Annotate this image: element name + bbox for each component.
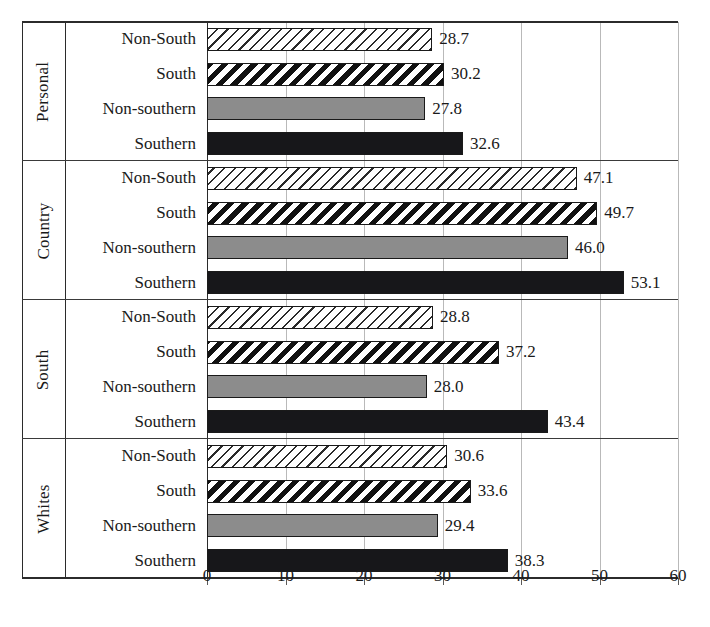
bar <box>207 341 499 364</box>
bar-row: Non-South28.7 <box>22 22 678 57</box>
bar-value-label: 37.2 <box>506 335 536 370</box>
series-label: Southern <box>66 126 202 161</box>
bar <box>207 28 432 51</box>
bar-value-label: 27.8 <box>432 92 462 127</box>
x-tick-label: 20 <box>356 566 373 586</box>
bar-row: Non-South28.8 <box>22 300 678 335</box>
series-label: Non-southern <box>66 231 202 266</box>
series-label: Southern <box>66 404 202 439</box>
bar <box>207 167 577 190</box>
bar <box>207 375 427 398</box>
bar-value-label: 33.6 <box>478 474 508 509</box>
bar <box>207 514 438 537</box>
bar-row: South37.2 <box>22 335 678 370</box>
series-label: Non-southern <box>66 370 202 405</box>
bar-group: CountryNon-South47.1South49.7Non-souther… <box>22 161 678 300</box>
bar-value-label: 32.6 <box>470 126 500 161</box>
bar-row: Non-South47.1 <box>22 161 678 196</box>
bar-row: Southern43.4 <box>22 404 678 439</box>
series-label: Non-South <box>66 22 202 57</box>
series-label: Non-South <box>66 439 202 474</box>
plot-area: PersonalNon-South28.7South30.2Non-southe… <box>22 22 678 578</box>
bar-value-label: 28.0 <box>434 370 464 405</box>
x-tick-label: 40 <box>513 566 530 586</box>
series-label: South <box>66 196 202 231</box>
bar <box>207 63 444 86</box>
x-tick-label: 0 <box>203 566 212 586</box>
bar <box>207 271 624 294</box>
bar-row: Non-southern28.0 <box>22 370 678 405</box>
bar-value-label: 46.0 <box>575 231 605 266</box>
bar <box>207 97 425 120</box>
series-label: Non-South <box>66 300 202 335</box>
x-tick-label: 60 <box>670 566 687 586</box>
group-separator <box>22 160 678 161</box>
series-label: Southern <box>66 265 202 300</box>
series-label: South <box>66 57 202 92</box>
bar-row: Non-South30.6 <box>22 439 678 474</box>
bar <box>207 202 597 225</box>
bar-value-label: 49.7 <box>604 196 634 231</box>
bar-row: South49.7 <box>22 196 678 231</box>
series-label: Non-South <box>66 161 202 196</box>
series-label: Southern <box>66 543 202 578</box>
bar-row: Non-southern27.8 <box>22 92 678 127</box>
bar-row: South33.6 <box>22 474 678 509</box>
bar-chart: PersonalNon-South28.7South30.2Non-southe… <box>0 0 710 627</box>
bar <box>207 410 548 433</box>
group-separator <box>22 299 678 300</box>
bar-row: South30.2 <box>22 57 678 92</box>
bar-group: WhitesNon-South30.6South33.6Non-southern… <box>22 439 678 578</box>
group-separator <box>22 21 678 23</box>
bar-group: PersonalNon-South28.7South30.2Non-southe… <box>22 22 678 161</box>
series-label: South <box>66 335 202 370</box>
bar-value-label: 47.1 <box>584 161 614 196</box>
bar <box>207 480 471 503</box>
x-tick-label: 10 <box>277 566 294 586</box>
bar <box>207 445 447 468</box>
bar <box>207 236 568 259</box>
bar <box>207 132 463 155</box>
bar-value-label: 30.2 <box>451 57 481 92</box>
x-tick-label: 30 <box>434 566 451 586</box>
group-separator <box>22 438 678 439</box>
bar-value-label: 28.7 <box>439 22 469 57</box>
bar-group: SouthNon-South28.8South37.2Non-southern2… <box>22 300 678 439</box>
series-label: Non-southern <box>66 92 202 127</box>
axis-baseline <box>22 577 678 579</box>
bar-row: Non-southern29.4 <box>22 509 678 544</box>
bar-row: Southern53.1 <box>22 265 678 300</box>
bar-value-label: 30.6 <box>454 439 484 474</box>
bar <box>207 306 433 329</box>
bar-value-label: 53.1 <box>631 265 661 300</box>
bar-row: Southern32.6 <box>22 126 678 161</box>
bar-row: Non-southern46.0 <box>22 231 678 266</box>
bar-row: Southern38.3 <box>22 543 678 578</box>
gridline-60 <box>678 22 679 578</box>
bar-value-label: 43.4 <box>555 404 585 439</box>
x-tick-label: 50 <box>591 566 608 586</box>
bar-value-label: 28.8 <box>440 300 470 335</box>
bar-value-label: 29.4 <box>445 509 475 544</box>
series-label: South <box>66 474 202 509</box>
series-label: Non-southern <box>66 509 202 544</box>
